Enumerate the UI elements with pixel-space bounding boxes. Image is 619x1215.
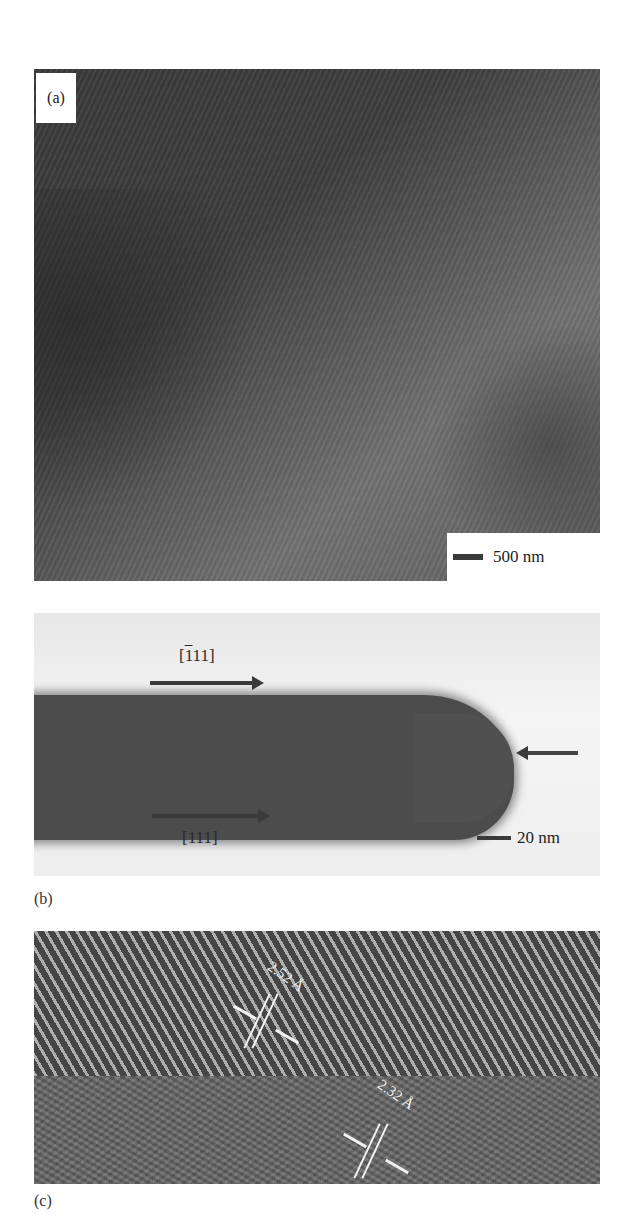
scale-bar-20nm: 20 nm (477, 828, 560, 848)
lower-lattice-region (34, 1076, 600, 1184)
arrow-right-icon (150, 681, 254, 685)
panel-b-tem-image: [111] [111] 20 nm (34, 613, 600, 876)
arrow-in-icon (275, 1029, 299, 1045)
panel-a-label: (a) (36, 73, 76, 123)
direction-label-top: [111] (179, 646, 215, 666)
panel-b-caption: (b) (34, 890, 53, 908)
scale-bar-500nm: 500 nm (447, 533, 600, 581)
overbar-digit: 1 (185, 646, 193, 665)
scale-bar-line (453, 554, 483, 560)
panel-a-sem-image: (a) 500 nm (34, 69, 600, 581)
direction-rest: 11] (193, 646, 215, 665)
spacing-label-1: 2.52 Å (264, 958, 307, 995)
arrow-left-icon (526, 751, 578, 755)
panel-c-hrtem-image: 2.52 Å 2.32 Å (34, 931, 600, 1184)
arrow-in-icon (233, 1005, 257, 1021)
scale-bar-label: 20 nm (517, 828, 560, 848)
scale-bar-line (477, 836, 511, 840)
arrow-right-icon (152, 814, 260, 818)
dark-region (34, 189, 254, 509)
scale-bar-label: 500 nm (493, 547, 544, 567)
panel-c-caption: (c) (34, 1192, 52, 1210)
dark-region (430, 319, 600, 569)
direction-label-bottom: [111] (182, 828, 218, 848)
